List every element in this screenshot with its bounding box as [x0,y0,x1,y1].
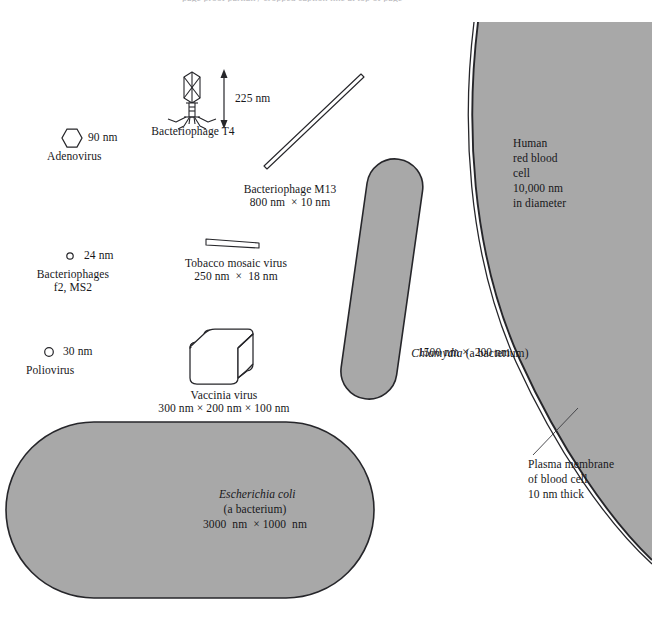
bacteriophage-m13-name-label: Bacteriophage M13 [216,183,364,197]
chlamydia-size-label: 1500 nm × 200 nm [372,346,556,360]
red-blood-cell-label-line3: cell [513,167,530,181]
phage-f2-ms2-name-label: Bacteriophages [15,268,131,282]
poliovirus-size-label: 30 nm [63,345,93,359]
tobacco-mosaic-virus-name-label: Tobacco mosaic virus [160,257,312,271]
bacteriophage-t4-shape [168,72,216,129]
tobacco-mosaic-virus-shape [206,239,259,248]
adenovirus-shape [62,129,82,147]
cropped-caption-top: page proof partially cropped caption lin… [182,0,512,2]
ecoli-name-label: Escherichia coli [219,488,296,502]
vaccinia-virus-shape [190,329,253,384]
t4-size-arrow [221,69,228,129]
red-blood-cell-label-line4: 10,000 nm [513,182,563,196]
figure-artwork [0,0,652,629]
bacteriophage-m13-size-label: 800 nm × 10 nm [216,196,364,210]
red-blood-cell-label-line5: in diameter [513,197,566,211]
bacteriophage-t4-size-label: 225 nm [235,92,270,106]
vaccinia-virus-name-label: Vaccinia virus [139,389,309,403]
bacteriophage-m13-shape [264,74,364,169]
poliovirus-shape [45,348,54,357]
plasma-membrane-leader-line [533,408,578,455]
poliovirus-name-label: Poliovirus [26,364,74,378]
ecoli-size-label: 3000 nm × 1000 nm [165,518,345,532]
red-blood-cell-label-line2: red blood [513,152,558,166]
adenovirus-name-label: Adenovirus [47,150,102,164]
phage-f2-ms2-shape [67,253,73,259]
bacteriophage-t4-name-label: Bacteriophage T4 [128,125,258,139]
plasma-membrane-label-line2: of blood cell [528,473,587,487]
red-blood-cell-label-line1: Human [513,137,547,151]
plasma-membrane-label-line1: Plasma membrane [528,458,614,472]
plasma-membrane-label-line3: 10 nm thick [528,488,584,502]
tobacco-mosaic-virus-size-label: 250 nm × 18 nm [160,270,312,284]
ecoli-descriptor-label: (a bacterium) [165,503,345,517]
phage-f2-ms2-strains-label: f2, MS2 [15,281,131,295]
phage-f2-ms2-size-label: 24 nm [84,249,114,263]
vaccinia-virus-size-label: 300 nm × 200 nm × 100 nm [124,402,324,416]
virus-size-comparison-figure: page proof partially cropped caption lin… [0,0,652,629]
adenovirus-size-label: 90 nm [88,131,118,145]
